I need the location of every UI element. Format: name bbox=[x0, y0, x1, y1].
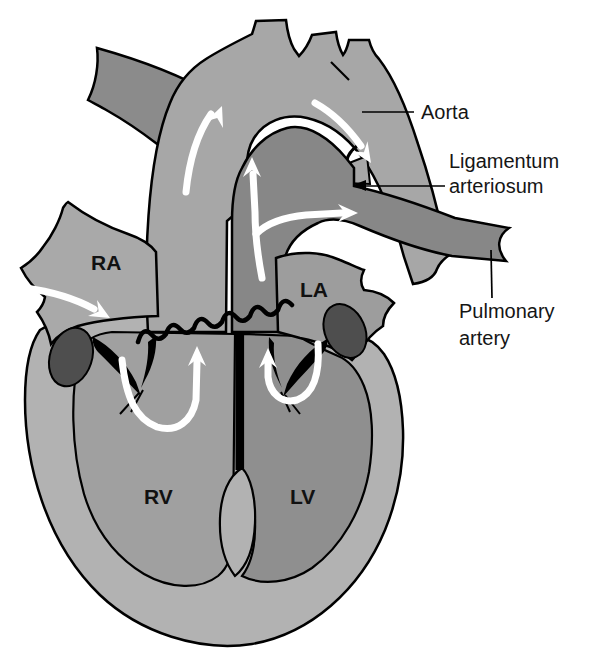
label-aorta: Aorta bbox=[421, 101, 470, 123]
heart-circulation-diagram: Aorta Ligamentum arteriosum Pulmonary ar… bbox=[0, 0, 609, 658]
label-right-ventricle: RV bbox=[144, 485, 173, 508]
label-ligamentum-line1: Ligamentum bbox=[449, 150, 559, 172]
pointer-pulmonary bbox=[491, 250, 492, 298]
label-pulmonary-line1: Pulmonary bbox=[459, 300, 555, 322]
diagram-canvas: Aorta Ligamentum arteriosum Pulmonary ar… bbox=[0, 0, 609, 658]
label-left-ventricle: LV bbox=[290, 485, 315, 508]
label-ligamentum-line2: arteriosum bbox=[449, 175, 543, 197]
label-pulmonary-line2: artery bbox=[459, 327, 510, 349]
label-right-atrium: RA bbox=[91, 251, 121, 274]
label-left-atrium: LA bbox=[300, 278, 328, 301]
